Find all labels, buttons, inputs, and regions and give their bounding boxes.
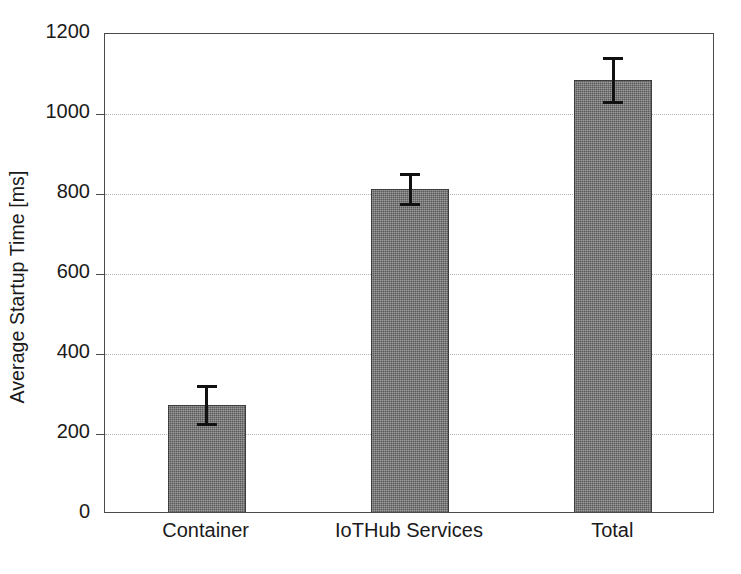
- bar: [574, 80, 652, 512]
- error-bar-cap-upper: [400, 173, 420, 176]
- x-axis-tick-label: IoTHub Services: [307, 519, 510, 542]
- y-axis-tick-label: 600: [28, 260, 90, 283]
- error-bar-stem: [205, 386, 208, 424]
- error-bar-stem: [612, 58, 615, 102]
- y-axis-label: Average Startup Time [ms]: [0, 0, 34, 574]
- y-axis-tick: [96, 194, 105, 195]
- plot-inner: [105, 34, 713, 512]
- y-axis-tick-label: 200: [28, 420, 90, 443]
- bar-chart-figure: Average Startup Time [ms] 02004006008001…: [0, 0, 741, 574]
- y-axis-tick-label: 800: [28, 180, 90, 203]
- error-bar-cap-lower: [197, 423, 217, 426]
- y-axis-tick-label: 1200: [28, 20, 90, 43]
- error-bar-cap-upper: [603, 57, 623, 60]
- x-axis-tick-label: Container: [104, 519, 307, 542]
- error-bar-cap-upper: [197, 385, 217, 388]
- y-axis-tick: [96, 114, 105, 115]
- y-axis-tick-label: 400: [28, 340, 90, 363]
- y-axis-tick: [96, 434, 105, 435]
- y-axis-tick-label: 1000: [28, 100, 90, 123]
- bar: [371, 189, 449, 512]
- x-axis-tick-label: Total: [511, 519, 714, 542]
- error-bar-cap-lower: [603, 101, 623, 104]
- y-axis-tick: [96, 354, 105, 355]
- plot-area: [104, 33, 714, 513]
- y-axis-tick: [96, 274, 105, 275]
- y-axis-tick-label: 0: [28, 500, 90, 523]
- error-bar-cap-lower: [400, 203, 420, 206]
- error-bar-stem: [409, 174, 412, 204]
